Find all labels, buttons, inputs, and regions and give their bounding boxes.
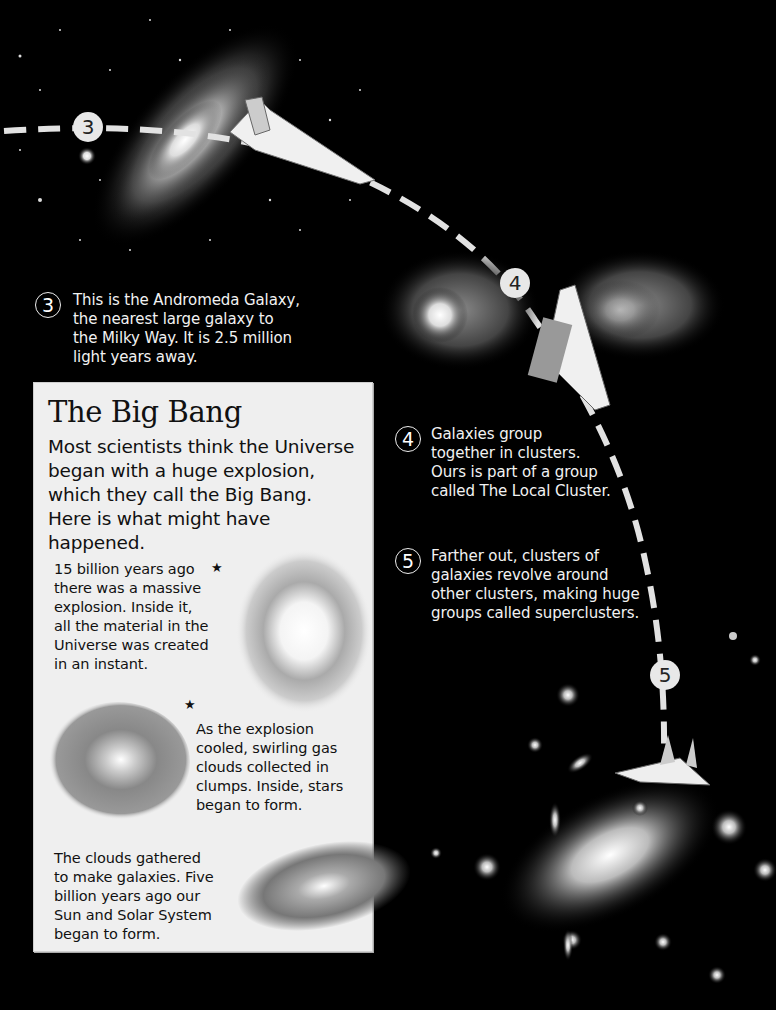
swirling-gas-cloud-image [46,701,191,823]
caption-text-4: Galaxies group together in clusters. Our… [431,425,635,501]
spaceship-1 [230,97,375,184]
spiral-galaxy-image [236,841,412,931]
path-marker-5: 5 [650,660,680,690]
step-gas-clouds-text: As the explosion cooled, swirling gas cl… [196,720,343,815]
caption-5: 5 Farther out, clusters of galaxies revo… [395,547,655,623]
big-bang-panel: The Big Bang Most scientists think the U… [33,382,373,952]
panel-title: The Big Bang [48,395,242,429]
caption-4: 4 Galaxies group together in clusters. O… [395,425,635,501]
path-marker-4: 4 [500,268,530,298]
star-icon: ★ [211,560,223,575]
caption-number-4: 4 [395,426,421,452]
caption-number-5: 5 [395,548,421,574]
caption-text-5: Farther out, clusters of galaxies revolv… [431,547,655,623]
caption-text-3: This is the Andromeda Galaxy, the neares… [73,291,335,367]
explosion-burst-image [234,543,374,713]
galaxy-supercluster [430,632,776,984]
path-marker-3: 3 [73,112,103,142]
step-galaxies-text: The clouds gathered to make galaxies. Fi… [54,849,214,944]
caption-3: 3 This is the Andromeda Galaxy, the near… [35,291,335,367]
panel-intro: Most scientists think the Universe began… [48,435,370,555]
caption-number-3: 3 [35,292,61,318]
step-explosion-text: 15 billion years ago there was a massive… [54,560,209,674]
